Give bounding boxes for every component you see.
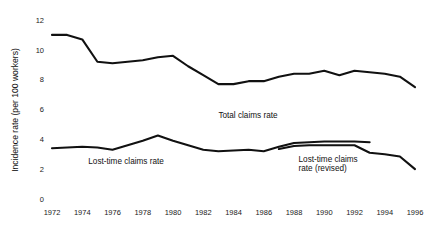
y-tick-label: 8 (40, 75, 44, 84)
x-tick-label: 1996 (407, 208, 424, 217)
x-tick-label: 1988 (286, 208, 303, 217)
y-axis-title: Incidence rate (per 100 workers) (10, 48, 20, 172)
series-annotation-label: Lost-time claims (299, 155, 358, 164)
x-tick-label: 1990 (316, 208, 333, 217)
chart-container: Incidence rate (per 100 workers) 1210864… (0, 0, 434, 239)
x-tick-label: 1982 (195, 208, 212, 217)
y-axis-title-text: Incidence rate (per 100 workers) (10, 48, 20, 172)
x-tick-label: 1986 (255, 208, 272, 217)
series-annotation-label: Total claims rate (218, 111, 278, 120)
y-tick-label: 2 (40, 165, 44, 174)
x-tick-label: 1992 (346, 208, 363, 217)
y-tick-label: 6 (40, 105, 44, 114)
x-tick-label: 1994 (376, 208, 393, 217)
x-tick-label: 1978 (134, 208, 151, 217)
y-tick-label: 12 (36, 16, 44, 25)
series-annotation-label: Lost-time claims rate (88, 157, 164, 166)
x-tick-label: 1980 (165, 208, 182, 217)
y-tick-label: 10 (36, 46, 44, 55)
x-tick-label: 1984 (225, 208, 242, 217)
y-tick-label: 4 (40, 135, 44, 144)
series-annotation-label: rate (revised) (299, 164, 348, 173)
x-tick-label: 1972 (44, 208, 61, 217)
y-tick-label: 0 (40, 195, 44, 204)
incidence-rate-line-chart: Incidence rate (per 100 workers) 1210864… (0, 0, 434, 239)
x-tick-label: 1976 (104, 208, 121, 217)
x-tick-label: 1974 (74, 208, 91, 217)
